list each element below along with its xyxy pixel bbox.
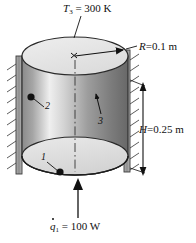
height-arrow-up [140, 82, 147, 91]
height-unit: m [175, 123, 184, 135]
radius-value: 0.1 [152, 40, 166, 52]
radius-symbol: R [139, 40, 146, 52]
heat-input-symbol: q [50, 221, 56, 232]
heat-input-label: q1 = 100 W [50, 221, 100, 234]
height-value: 0.25 [153, 123, 172, 135]
surface-1-dot [56, 168, 63, 175]
top-temperature-relation: = [75, 2, 81, 14]
height-symbol: H [139, 123, 147, 135]
surface-label-3: 3 [98, 116, 103, 126]
heat-transfer-figure: T3 = 300 K R=0.1 m H=0.25 m q1 = 100 W 1… [0, 0, 196, 243]
left-wall-plate [16, 56, 22, 174]
height-label: H=0.25 m [139, 124, 184, 135]
heat-input-value: 100 [71, 220, 88, 232]
top-temperature-unit: K [104, 2, 112, 14]
surface-2-dot [27, 93, 34, 100]
top-temperature-label: T3 = 300 K [63, 3, 112, 16]
radius-unit: m [168, 40, 177, 52]
top-temperature-value: 300 [84, 2, 101, 14]
left-wall-hatching [7, 64, 16, 169]
surface-label-2: 2 [45, 101, 50, 111]
heat-input-unit: W [90, 220, 100, 232]
top-temperature-leader [74, 16, 81, 38]
heat-flux-arrow-head [73, 178, 83, 190]
surface-label-1: 1 [41, 152, 46, 162]
radius-label: R=0.1 m [139, 41, 177, 52]
radius-label-leader [126, 46, 137, 49]
right-wall-hatching [130, 54, 139, 170]
